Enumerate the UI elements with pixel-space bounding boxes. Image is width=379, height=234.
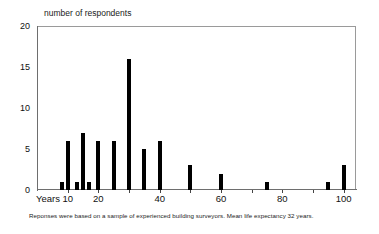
y-axis-tick-label: 15 xyxy=(0,63,30,72)
bar xyxy=(158,141,162,190)
y-axis-tick-label: 10 xyxy=(0,104,30,113)
bar xyxy=(127,59,131,190)
bar xyxy=(87,182,91,190)
chart-footnote: Reponses were based on a sample of exper… xyxy=(29,212,359,220)
bar xyxy=(81,133,85,190)
x-axis-tick-label: 100 xyxy=(336,193,352,204)
bar xyxy=(75,182,79,190)
bar xyxy=(219,174,223,190)
bar xyxy=(112,141,116,190)
x-axis-tick-labels: Years1020406080100 xyxy=(0,193,379,207)
chart-figure: number of respondents 05101520 Years1020… xyxy=(0,0,379,234)
y-axis-tick-label: 5 xyxy=(0,145,30,154)
bar xyxy=(66,141,70,190)
bar xyxy=(60,182,64,190)
bar xyxy=(326,182,330,190)
y-axis-title: number of respondents xyxy=(44,8,131,18)
x-axis-label-years: Years xyxy=(36,193,60,204)
x-axis-tick-label: 60 xyxy=(216,193,227,204)
bar xyxy=(265,182,269,190)
x-axis-tick-label: 20 xyxy=(93,193,104,204)
bar xyxy=(342,165,346,190)
bar-series xyxy=(37,26,356,190)
x-axis-tick-label: 80 xyxy=(277,193,288,204)
bar xyxy=(142,149,146,190)
x-axis-tick-label: 40 xyxy=(154,193,165,204)
bar xyxy=(96,141,100,190)
bar xyxy=(188,165,192,190)
y-axis-tick-label: 20 xyxy=(0,22,30,31)
x-axis-tick-label: 10 xyxy=(62,193,73,204)
